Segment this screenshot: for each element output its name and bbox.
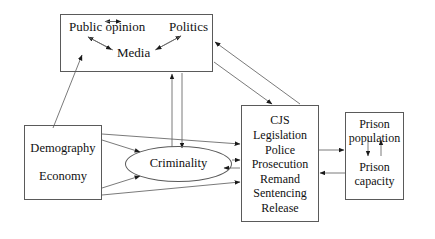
criminality-node[interactable]: Criminality xyxy=(125,146,232,182)
social-context-box[interactable]: Public opinion Politics Media xyxy=(60,14,213,72)
label-cjs: CJS xyxy=(270,113,289,128)
label-politics: Politics xyxy=(169,19,208,35)
label-media: Media xyxy=(117,45,150,61)
label-economy: Economy xyxy=(39,169,87,184)
diagram-canvas: Public opinion Politics Media Demography… xyxy=(0,0,435,239)
edge-socio-to-criminality-lower xyxy=(102,176,140,188)
label-prison-capacity: Prison capacity xyxy=(346,161,403,189)
edge-socio-to-cjs-upper xyxy=(102,134,240,144)
cjs-box[interactable]: CJS Legislation Police Prosecution Reman… xyxy=(241,105,319,222)
label-prosecution: Prosecution xyxy=(252,157,309,172)
edge-social-to-cjs xyxy=(214,62,272,104)
label-public-opinion: Public opinion xyxy=(69,19,145,35)
socioeconomic-box[interactable]: Demography Economy xyxy=(24,125,102,200)
label-criminality: Criminality xyxy=(150,156,208,171)
edge-cjs-to-social xyxy=(215,42,300,104)
label-demography: Demography xyxy=(30,141,95,156)
prison-box[interactable]: Prison population Prison capacity xyxy=(345,112,404,200)
edge-socio-to-criminality-upper xyxy=(102,140,140,152)
edge-socio-to-cjs-lower xyxy=(102,182,240,195)
label-remand: Remand xyxy=(260,172,300,187)
label-release: Release xyxy=(261,201,298,216)
label-police: Police xyxy=(265,143,295,158)
label-sentencing: Sentencing xyxy=(253,186,306,201)
label-legislation: Legislation xyxy=(253,128,307,143)
label-prison-population: Prison population xyxy=(346,118,403,146)
